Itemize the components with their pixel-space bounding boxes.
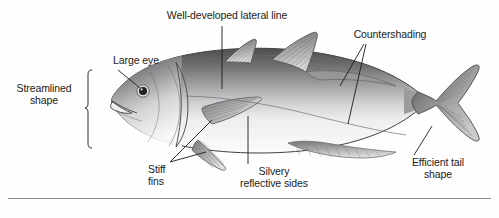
fish-head-shade <box>112 56 183 147</box>
label-lateral-line: Well-developed lateral line <box>152 10 302 22</box>
fish-eye-highlight <box>141 88 143 90</box>
label-stiff-fins: Stiff fins <box>148 164 198 187</box>
label-streamlined-shape: Streamlined shape <box>4 83 84 106</box>
leader-efficient-tail <box>414 126 432 155</box>
streamlined-shape-bracket <box>85 70 92 148</box>
caudal-fin <box>412 65 479 141</box>
figure-bottom-rule <box>8 198 491 199</box>
fish-eye <box>139 87 147 95</box>
label-countershading: Countershading <box>338 29 442 41</box>
label-silvery-reflective-sides: Silvery reflective sides <box>219 166 329 189</box>
label-large-eye: Large eye <box>94 55 178 67</box>
fish-adaptations-figure: Well-developed lateral line Large eye Co… <box>0 0 499 218</box>
label-efficient-tail-shape: Efficient tail shape <box>396 157 480 180</box>
